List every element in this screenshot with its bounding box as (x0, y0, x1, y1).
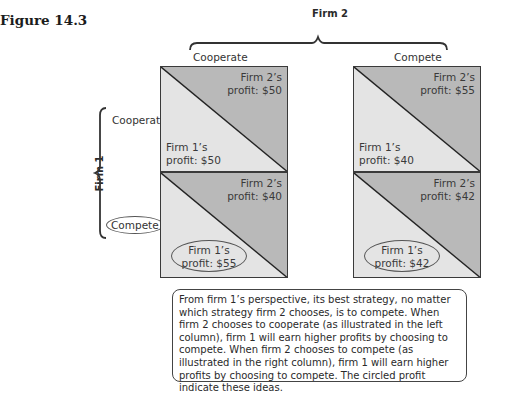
payoff-cell-compete-compete: Firm 2’s profit: $42 Firm 1’s profit: $4… (353, 172, 481, 278)
firm1-profit: Firm 1’s profit: $40 (359, 141, 414, 167)
firm2-profit: Firm 2’s profit: $55 (420, 71, 475, 97)
payoff-cell-coop-compete: Firm 2’s profit: $55 Firm 1’s profit: $4… (353, 66, 481, 172)
firm1-profit: Firm 1’s profit: $50 (166, 141, 221, 167)
firm2-label: Firm 2 (300, 8, 360, 19)
explanation-note: From firm 1’s perspective, its best stra… (172, 289, 467, 382)
payoff-cell-compete-coop: Firm 2’s profit: $40 Firm 1’s profit: $5… (160, 172, 288, 278)
firm1-profit-circled: Firm 1’s profit: $42 (364, 240, 440, 272)
row-label-compete: Compete (106, 219, 164, 231)
firm1-profit-circled: Firm 1’s profit: $55 (171, 240, 247, 272)
firm2-profit: Firm 2’s profit: $40 (227, 177, 282, 203)
figure-title: Figure 14.3 (0, 12, 87, 28)
column-label-cooperate: Cooperate (193, 51, 248, 63)
firm2-profit: Firm 2’s profit: $50 (227, 71, 282, 97)
column-label-compete: Compete (394, 51, 442, 63)
firm2-profit: Firm 2’s profit: $42 (420, 177, 475, 203)
row-label-cooperate: Cooperate (112, 114, 167, 126)
firm2-brace-icon (188, 34, 450, 52)
compete-circled-label: Compete (106, 216, 164, 234)
payoff-cell-coop-coop: Firm 2’s profit: $50 Firm 1’s profit: $5… (160, 66, 288, 172)
